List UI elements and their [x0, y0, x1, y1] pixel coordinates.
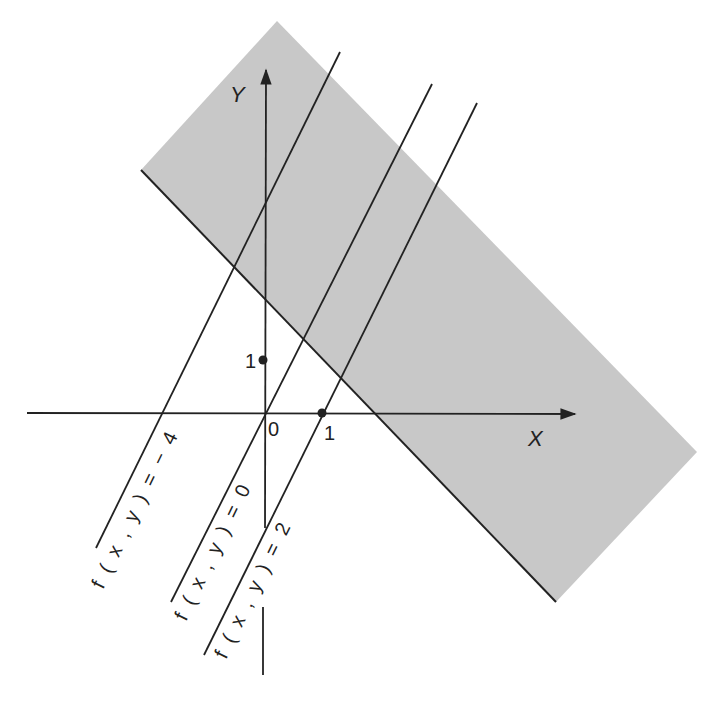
x-tick-label: 1 [324, 422, 335, 444]
y-unit-point [259, 356, 268, 365]
y-tick-label: 1 [245, 350, 256, 372]
origin-label: 0 [268, 418, 279, 440]
y-axis-label: Y [230, 82, 246, 107]
x-unit-point [318, 409, 327, 418]
y-axis [265, 70, 266, 528]
level-set-diagram: Y X 0 1 1 f ( x , y ) = − 4 f ( x , y ) … [0, 0, 720, 702]
level-label-minus-4: f ( x , y ) = − 4 [87, 425, 183, 591]
x-axis-label: X [527, 426, 544, 451]
x-axis [27, 413, 575, 414]
